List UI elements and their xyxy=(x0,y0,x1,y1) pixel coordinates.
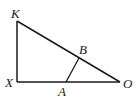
label-k: K xyxy=(10,6,21,21)
segment-ko xyxy=(17,21,120,82)
label-b: B xyxy=(79,42,87,57)
segment-ab xyxy=(66,58,79,82)
triangle-figure: K X O A B xyxy=(0,0,137,103)
label-a: A xyxy=(57,84,66,99)
diagram: K X O A B xyxy=(0,0,137,103)
label-o: O xyxy=(123,76,133,91)
label-x: X xyxy=(4,75,14,90)
